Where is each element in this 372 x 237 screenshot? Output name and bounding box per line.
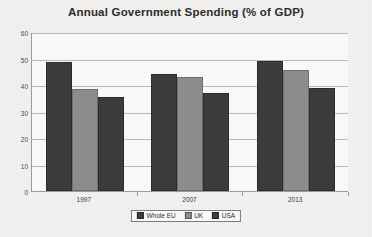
bar-group <box>243 33 349 191</box>
legend-swatch-icon <box>137 212 144 219</box>
bar <box>46 62 72 191</box>
y-axis-tick-label: 10 <box>6 162 28 169</box>
y-axis-tick-label: 60 <box>6 30 28 37</box>
chart-container: Annual Government Spending (% of GDP) 01… <box>0 0 372 237</box>
bar <box>257 61 283 191</box>
plot-area <box>31 33 348 192</box>
x-axis-tick-label: 1997 <box>77 196 91 203</box>
x-axis-tick <box>348 192 349 196</box>
x-axis-tick-label: 2013 <box>288 196 302 203</box>
legend-label: USA <box>222 212 235 219</box>
bar <box>177 77 203 191</box>
y-axis-tick-label: 30 <box>6 109 28 116</box>
legend-item[interactable]: Whole EU <box>137 212 176 219</box>
y-axis-tick-label: 20 <box>6 136 28 143</box>
legend-label: Whole EU <box>146 212 175 219</box>
legend-item[interactable]: USA <box>212 212 235 219</box>
y-axis-tick-label: 0 <box>6 189 28 196</box>
bar <box>203 93 229 191</box>
bar <box>98 97 124 191</box>
bar <box>151 74 177 191</box>
bar-group <box>32 33 138 191</box>
x-axis-tick <box>137 192 138 196</box>
y-axis-tick-label: 50 <box>6 56 28 63</box>
bar-group <box>138 33 244 191</box>
x-axis-tick <box>242 192 243 196</box>
legend-swatch-icon <box>212 212 219 219</box>
chart-legend: Whole EUUKUSA <box>131 210 241 222</box>
bar <box>283 70 309 191</box>
y-axis-tick-label: 40 <box>6 83 28 90</box>
bars-layer <box>32 33 348 191</box>
legend-label: UK <box>194 212 203 219</box>
legend-item[interactable]: UK <box>185 212 204 219</box>
bar <box>72 89 98 191</box>
y-axis: 0102030405060 <box>3 33 28 192</box>
bar <box>309 88 335 191</box>
legend-swatch-icon <box>185 212 192 219</box>
chart-title: Annual Government Spending (% of GDP) <box>0 6 372 18</box>
x-axis-tick-label: 2007 <box>182 196 196 203</box>
